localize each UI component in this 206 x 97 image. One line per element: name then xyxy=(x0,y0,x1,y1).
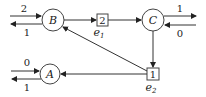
box-e1-value: 2 xyxy=(99,15,105,26)
box-e2[interactable]: 1 xyxy=(147,68,159,80)
a-in-label: 0 xyxy=(24,57,30,68)
diagram-canvas: 2 1 B 2 e1 C 1 0 1 e2 A 0 xyxy=(0,0,206,97)
node-a[interactable]: A xyxy=(40,64,60,84)
edge-e2-to-b xyxy=(63,27,147,71)
box-e2-value: 1 xyxy=(150,69,156,80)
a-out-label: 1 xyxy=(24,82,30,93)
node-c-label: C xyxy=(149,14,158,27)
node-c[interactable]: C xyxy=(142,9,164,31)
box-e2-label: e2 xyxy=(146,81,158,95)
b-in-label: 2 xyxy=(21,3,27,14)
box-e1-label: e1 xyxy=(94,26,105,40)
c-in-label: 0 xyxy=(177,28,183,39)
c-out-label: 1 xyxy=(177,3,183,14)
node-b-label: B xyxy=(48,14,57,27)
node-b[interactable]: B xyxy=(42,9,64,31)
box-e1[interactable]: 2 xyxy=(97,14,108,26)
b-out-label: 1 xyxy=(24,27,30,38)
node-a-label: A xyxy=(45,68,54,81)
